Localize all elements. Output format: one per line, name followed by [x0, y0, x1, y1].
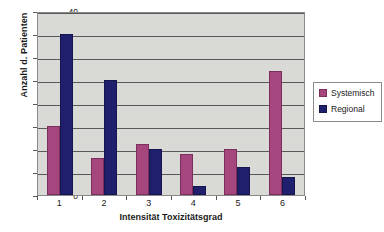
- legend-swatch-icon: [319, 105, 327, 113]
- bars-layer: [38, 13, 304, 195]
- bar-group: [41, 13, 80, 195]
- bar-group: [129, 13, 168, 195]
- legend: SystemischRegional: [313, 82, 382, 122]
- x-axis-tick-label: 2: [84, 198, 123, 212]
- bar-group: [218, 13, 257, 195]
- bar-systemisch-4: [180, 154, 193, 195]
- x-axis-tick-label: 6: [263, 198, 302, 212]
- bar-group: [85, 13, 124, 195]
- bar-regional-5: [237, 167, 250, 195]
- bar-regional-3: [149, 149, 162, 195]
- y-axis-title: Anzahl d. Patienten: [19, 0, 29, 125]
- x-axis-title: Intensität Toxizitätsgrad: [37, 212, 305, 222]
- bar-regional-4: [193, 186, 206, 195]
- bar-systemisch-2: [91, 158, 104, 195]
- plot-area: [37, 12, 305, 196]
- legend-label: Systemisch: [331, 88, 374, 98]
- x-axis-tick-mark: [305, 196, 306, 200]
- legend-item-regional[interactable]: Regional: [319, 104, 381, 114]
- bar-group: [262, 13, 301, 195]
- x-axis-tick-label: 1: [40, 198, 79, 212]
- legend-item-systemisch[interactable]: Systemisch: [319, 88, 381, 98]
- bar-systemisch-3: [136, 144, 149, 195]
- bar-regional-6: [282, 177, 295, 195]
- bar-chart: Anzahl d. Patienten 0510152025303540 123…: [0, 0, 384, 232]
- bar-group: [174, 13, 213, 195]
- bar-systemisch-5: [224, 149, 237, 195]
- legend-label: Regional: [331, 104, 365, 114]
- bar-systemisch-6: [269, 71, 282, 195]
- x-axis-tick-label: 3: [129, 198, 168, 212]
- x-axis-tick-label: 5: [218, 198, 257, 212]
- legend-swatch-icon: [319, 89, 327, 97]
- x-axis-tick-label: 4: [174, 198, 213, 212]
- bar-regional-1: [60, 34, 73, 195]
- x-axis-tick-labels: 123456: [37, 198, 305, 212]
- bar-systemisch-1: [47, 126, 60, 195]
- bar-regional-2: [104, 80, 117, 195]
